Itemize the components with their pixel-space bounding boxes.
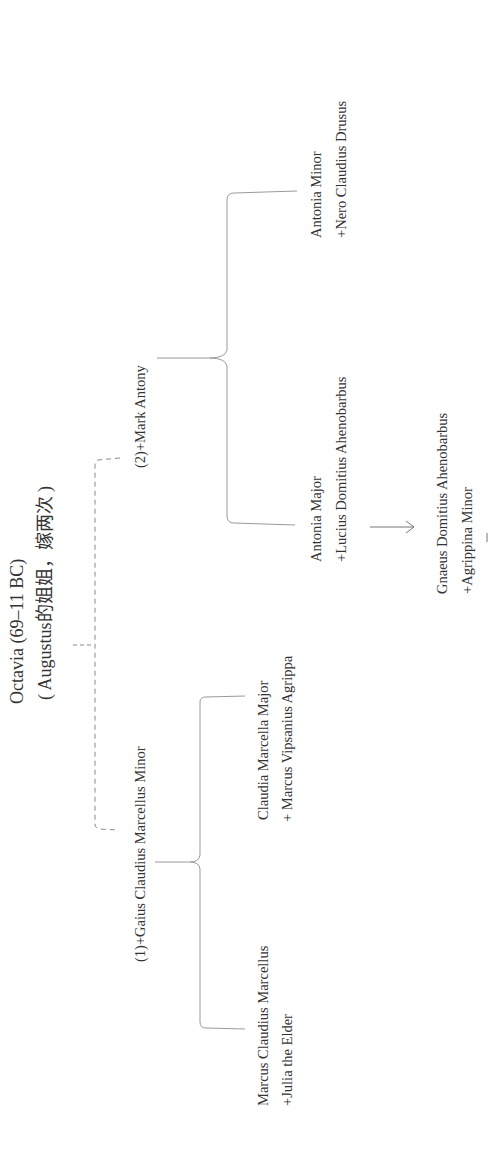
brace-marriage-2-bottom (210, 358, 295, 525)
root-note: ( Augustus的姐姐，嫁两次 ) (36, 486, 54, 700)
marriage-bracket-dashed (95, 458, 120, 830)
child-marcus-name: Marcus Claudius Marcellus (256, 946, 271, 1106)
connector-lines (0, 0, 493, 1162)
brace-marriage-1-bottom (190, 862, 245, 1029)
brace-marriage-2-top (157, 191, 297, 358)
brace-marriage-1-top (155, 696, 245, 862)
child-antonia-major-name: Antonia Major (309, 476, 324, 562)
family-tree-diagram: Octavia (69–11 BC) ( Augustus的姐姐，嫁两次 ) (… (0, 0, 493, 1162)
child-antonia-minor-spouse: +Nero Claudius Drusus (334, 101, 349, 238)
child-antonia-major-spouse: +Lucius Domitius Ahenobarbus (334, 377, 349, 562)
descendant-spouse: +Agrippina Minor (460, 487, 475, 594)
child-antonia-minor-name: Antonia Minor (309, 151, 324, 238)
marriage-2-label: (2)+Mark Antony (133, 365, 148, 468)
marriage-1-label: (1)+Gaius Claudius Marcellus Minor (133, 746, 148, 962)
descendant-name: Gnaeus Domitius Ahenobarbus (435, 413, 450, 594)
child-claudia-spouse: + Marcus Vipsanius Agrippa (280, 656, 295, 822)
root-name: Octavia (69–11 BC) (8, 559, 26, 704)
child-marcus-spouse: +Julia the Elder (280, 1014, 295, 1106)
child-claudia-name: Claudia Marcella Major (256, 681, 271, 820)
